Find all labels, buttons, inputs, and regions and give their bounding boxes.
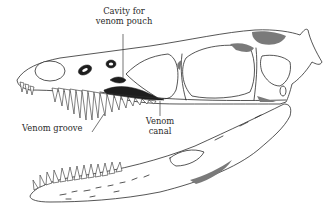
label-venom-groove-text: Venom groove <box>22 123 82 133</box>
label-cavity-line1: Cavity for <box>90 6 158 16</box>
label-canal-line1: Venom <box>142 116 178 126</box>
label-cavity-venom-pouch: Cavity for venom pouch <box>90 6 158 26</box>
label-cavity-line2: venom pouch <box>90 16 158 26</box>
external-naris <box>35 61 65 81</box>
quadrate-opening <box>280 86 286 96</box>
skull-illustration <box>0 0 332 213</box>
promaxillary-fenestra-inner <box>109 62 113 65</box>
label-venom-groove: Venom groove <box>22 123 82 133</box>
label-canal-line2: canal <box>142 126 178 136</box>
label-venom-canal: Venom canal <box>142 116 178 136</box>
orbit-large-fenestra <box>183 45 255 98</box>
